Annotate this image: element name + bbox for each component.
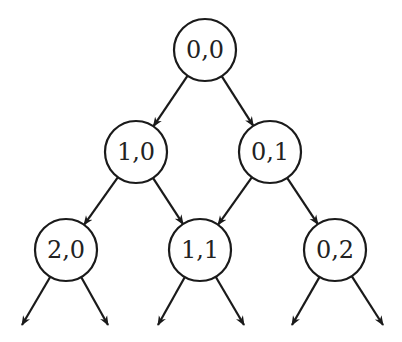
node-label: 0,2 (316, 236, 354, 264)
tree-diagram: 0,01,00,12,01,10,2 (0, 0, 402, 342)
node-label: 0,0 (186, 36, 224, 64)
edge-arrow (216, 277, 244, 325)
tree-node: 0,0 (174, 19, 236, 81)
edge-arrow (153, 76, 187, 127)
node-label: 2,0 (47, 236, 85, 264)
node-label: 1,1 (181, 236, 219, 264)
tree-node: 0,1 (239, 121, 301, 183)
edge-arrow (153, 178, 183, 224)
edges (22, 76, 383, 325)
edge-arrow (292, 277, 320, 325)
edge-arrow (218, 177, 252, 225)
edge-arrow (222, 76, 254, 126)
node-label: 0,1 (251, 138, 289, 166)
edge-arrow (287, 178, 318, 224)
edge-arrow (81, 277, 108, 325)
tree-node: 1,1 (169, 219, 231, 281)
edge-arrow (352, 276, 383, 325)
edge-arrow (22, 277, 50, 325)
tree-node: 0,2 (304, 219, 366, 281)
edge-arrow (84, 177, 118, 225)
diagram-svg: 0,01,00,12,01,10,2 (0, 0, 402, 342)
node-label: 1,0 (117, 138, 155, 166)
edge-arrow (158, 277, 185, 325)
nodes: 0,01,00,12,01,10,2 (35, 19, 366, 281)
tree-node: 2,0 (35, 219, 97, 281)
tree-node: 1,0 (105, 121, 167, 183)
